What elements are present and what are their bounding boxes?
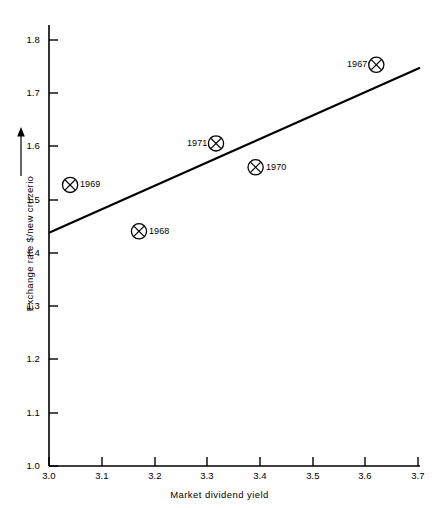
data-point-1970[interactable] [248,160,263,175]
data-label-1967: 1967 [347,60,367,69]
data-label-1969: 1969 [80,180,100,189]
x-tick-label-3.3: 3.3 [192,471,222,481]
data-label-1971: 1971 [187,139,207,148]
x-tick-label-3.6: 3.6 [350,471,380,481]
y-tick-label-1.1: 1.1 [14,408,40,418]
x-tick-label-3.7: 3.7 [403,471,433,481]
x-tick-label-3.4: 3.4 [245,471,275,481]
y-tick-label-1.8: 1.8 [14,35,40,45]
x-tick-label-3.1: 3.1 [87,471,117,481]
data-point-1967[interactable] [369,57,384,72]
y-axis-title: Exchange rate $/new cruzerio [24,159,35,329]
data-label-1970: 1970 [266,163,286,172]
y-axis-ticks [49,40,58,466]
data-point-1969[interactable] [63,177,78,192]
x-tick-label-3.2: 3.2 [140,471,170,481]
scatter-chart: 1.8 1.7 1.6 1.5 1.4 1.3 1.2 1.1 1.0 3.0 … [0,0,439,508]
y-tick-label-1.6: 1.6 [14,141,40,151]
y-tick-label-1.0: 1.0 [14,461,40,471]
data-label-1968: 1968 [149,227,169,236]
y-tick-label-1.2: 1.2 [14,354,40,364]
x-axis-ticks [49,457,418,466]
plot-area [0,0,439,508]
x-axis-title: Market dividend yield [0,489,439,500]
data-point-1971[interactable] [208,136,223,151]
x-tick-label-3.0: 3.0 [34,471,64,481]
y-tick-label-1.7: 1.7 [14,88,40,98]
trend-line [49,68,420,233]
x-tick-label-3.5: 3.5 [298,471,328,481]
data-point-1968[interactable] [131,224,146,239]
